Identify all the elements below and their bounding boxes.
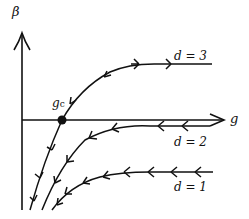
beta-axis (14, 33, 30, 210)
curve-label-d3: d = 3 (174, 50, 207, 62)
flow-diagram-canvas (0, 0, 249, 219)
g-axis (22, 114, 224, 126)
curve-label-d2: d = 2 (174, 136, 207, 148)
critical-fixed-point (58, 116, 67, 125)
curve-label-d1: d = 1 (174, 181, 207, 193)
fixed-point-symbol: g (52, 96, 60, 110)
fixed-point-label: gc (52, 97, 65, 109)
fixed-point-subscript: c (60, 99, 65, 109)
beta-axis-label: β (12, 5, 20, 18)
g-axis-label: g (230, 112, 238, 125)
